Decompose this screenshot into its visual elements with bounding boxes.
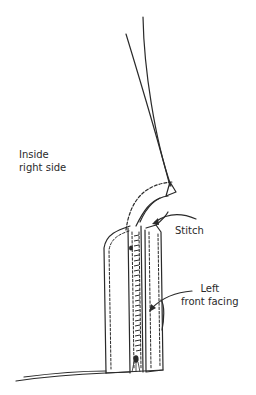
label-facing-line1: Left — [181, 282, 239, 295]
hem-line — [16, 373, 106, 381]
zipper-tape-right — [141, 226, 143, 372]
label-inside-line1: Inside — [19, 148, 66, 161]
collar-fold-triangle — [166, 182, 176, 196]
facing-panel-stitch-2 — [158, 234, 160, 366]
zipper-pull — [133, 355, 138, 363]
neckline-edge-inner — [143, 17, 171, 186]
zipper-tape-stitch-left — [132, 232, 134, 368]
left-panel-stitch — [109, 231, 129, 369]
stitch-arrowhead — [152, 218, 159, 225]
label-left-front-facing: Left front facing — [181, 282, 239, 308]
left-panel-outline — [104, 226, 130, 373]
facing-panel-outline — [145, 225, 163, 372]
zipper-pull-tails — [132, 362, 140, 372]
diagram-canvas — [0, 0, 256, 395]
facing-panel-stitch — [149, 232, 151, 368]
label-inside-right-side: Inside right side — [19, 148, 66, 174]
label-inside-line2: right side — [19, 161, 66, 174]
zipper-top-stop — [129, 246, 133, 251]
label-stitch: Stitch — [175, 224, 204, 237]
label-facing-line2: front facing — [181, 295, 239, 308]
